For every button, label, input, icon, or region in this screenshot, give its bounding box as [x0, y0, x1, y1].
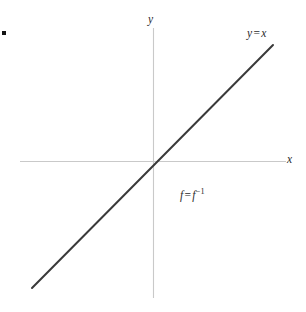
inverse-lhs: f: [180, 189, 184, 201]
x-axis-label: x: [287, 154, 292, 166]
identity-line: [32, 45, 273, 288]
inverse-rhs-exponent: −1: [196, 187, 205, 196]
function-graph-figure: y x y=x f=f−1: [0, 0, 306, 312]
plot-canvas: [0, 0, 306, 312]
inverse-function-label: f=f−1: [180, 188, 205, 201]
inverse-operator: =: [184, 189, 193, 201]
line-equation-operator: =: [252, 27, 261, 39]
line-equation-rhs: x: [261, 27, 266, 39]
y-axis-label: y: [148, 14, 153, 26]
line-equation-label: y=x: [247, 28, 267, 40]
